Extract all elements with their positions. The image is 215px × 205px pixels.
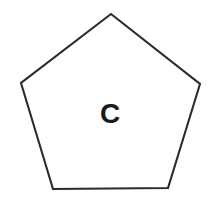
pentagon-diagram: C (0, 0, 215, 205)
pentagon-label: C (100, 98, 120, 129)
shape-canvas: C (0, 0, 215, 205)
